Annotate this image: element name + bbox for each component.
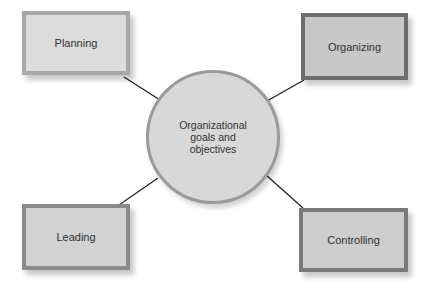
connector-planning — [124, 77, 160, 100]
node-leading-label: Leading — [56, 231, 95, 243]
node-organizing: Organizing — [301, 13, 408, 80]
connector-controlling — [266, 175, 303, 208]
connector-leading — [119, 178, 158, 205]
node-planning: Planning — [22, 11, 130, 75]
center-goals-label: Organizational goals and objectives — [168, 119, 258, 155]
management-functions-diagram: Planning Organizing Leading Controlling … — [0, 0, 444, 290]
node-planning-label: Planning — [55, 37, 98, 49]
node-controlling: Controlling — [299, 208, 408, 272]
node-organizing-label: Organizing — [328, 41, 381, 53]
node-leading: Leading — [22, 204, 130, 270]
node-controlling-label: Controlling — [327, 234, 380, 246]
center-goals-circle: Organizational goals and objectives — [146, 70, 280, 204]
connector-organizing — [267, 80, 304, 101]
